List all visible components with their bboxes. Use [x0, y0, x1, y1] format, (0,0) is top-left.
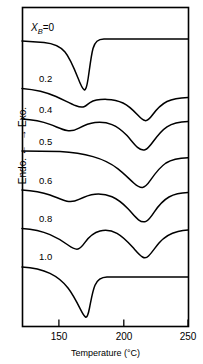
curve-label-xb-0-4: 0.4: [39, 104, 52, 115]
curve-label-xb-0-6: 0.6: [39, 175, 52, 186]
curve-xb-1-0: [22, 267, 188, 317]
curve-label-xb-0-8: 0.8: [39, 213, 52, 224]
y-axis-label-exo: Exo.: [17, 107, 28, 127]
y-axis-label: Endo. ← → Exo.: [17, 86, 28, 206]
curve-label-xb-0: XB=0: [31, 22, 54, 36]
plot-frame: [23, 8, 189, 327]
curve-label-xb-1-0: 1.0: [39, 251, 52, 262]
curve-label-xb-0-5: 0.5: [39, 136, 52, 147]
x-axis-label: Temperature (°C): [22, 348, 189, 358]
y-axis-arrow-down: ← →: [17, 127, 28, 158]
x-tick-label-200: 200: [109, 331, 139, 342]
curve-label-xb-0-2: 0.2: [39, 73, 52, 84]
y-axis-label-endo: Endo.: [17, 158, 28, 184]
curve-label-value: =0: [43, 22, 54, 33]
x-tick-label-250: 250: [173, 331, 203, 342]
x-axis-ticks: [59, 320, 188, 327]
plot-area: [0, 0, 203, 364]
curve-label-variable: X: [31, 22, 38, 33]
x-tick-label-150: 150: [44, 331, 74, 342]
dsc-thermogram-figure: Endo. ← → Exo. XB=0 0.2 0.4 0.5 0.6 0.8: [0, 0, 203, 364]
